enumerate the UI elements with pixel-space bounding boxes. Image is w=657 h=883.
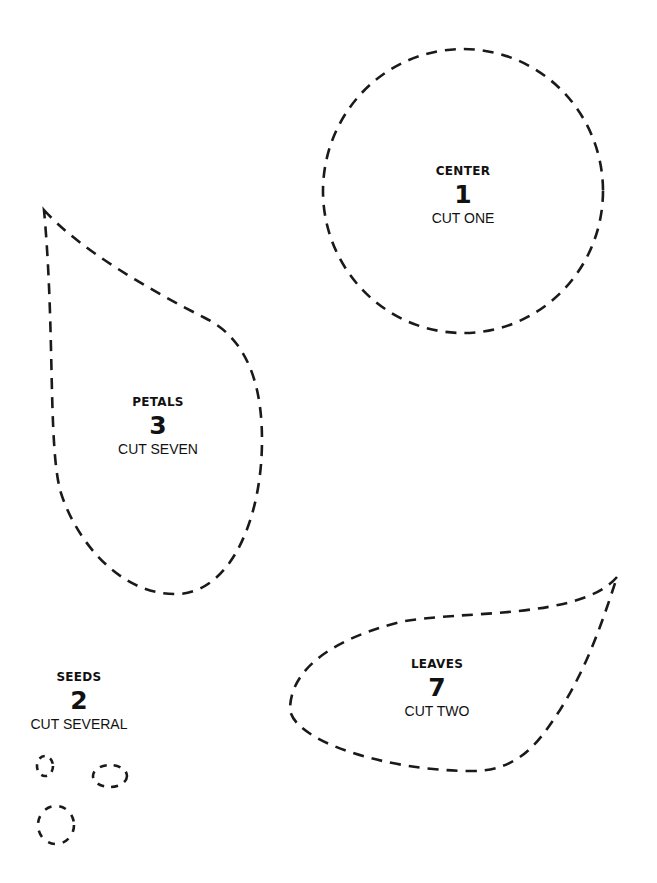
- piece-number: 2: [31, 687, 128, 715]
- cut-instruction: CUT ONE: [432, 210, 495, 226]
- piece-number: 7: [405, 674, 470, 702]
- leaves-label: LEAVES 7 CUT TWO: [405, 657, 470, 719]
- center-label: CENTER 1 CUT ONE: [432, 164, 495, 226]
- seed-cutout-round: [38, 806, 74, 844]
- seed-cutout-small: [37, 756, 53, 776]
- piece-number: 3: [118, 412, 198, 440]
- piece-number: 1: [432, 181, 495, 209]
- piece-name: PETALS: [118, 395, 198, 409]
- seed-cutout-oval: [93, 765, 127, 787]
- cut-instruction: CUT SEVERAL: [31, 716, 128, 732]
- pattern-shapes: [0, 0, 657, 883]
- seeds-label: SEEDS 2 CUT SEVERAL: [31, 670, 128, 732]
- piece-name: SEEDS: [31, 670, 128, 684]
- cut-instruction: CUT TWO: [405, 703, 470, 719]
- cut-instruction: CUT SEVEN: [118, 441, 198, 457]
- petals-label: PETALS 3 CUT SEVEN: [118, 395, 198, 457]
- piece-name: CENTER: [432, 164, 495, 178]
- piece-name: LEAVES: [405, 657, 470, 671]
